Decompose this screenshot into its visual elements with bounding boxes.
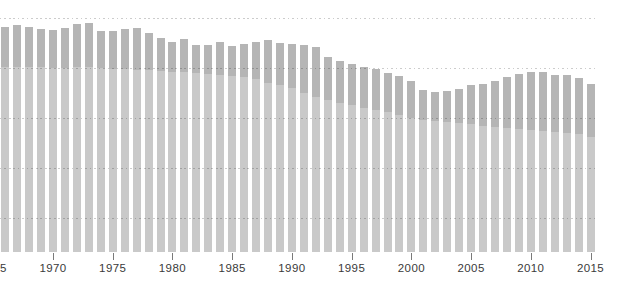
bar-front-1992 bbox=[312, 97, 320, 252]
x-tick-1990 bbox=[292, 253, 293, 260]
bar-front-2002 bbox=[431, 121, 439, 252]
bar-front-1977 bbox=[133, 70, 141, 252]
x-tick-label-1995: 1995 bbox=[330, 262, 374, 274]
bar-front-1972 bbox=[73, 67, 81, 252]
bar-front-1966 bbox=[1, 67, 9, 252]
bar-front-1985 bbox=[228, 76, 236, 252]
bar-front-2004 bbox=[455, 123, 463, 252]
bar-front-1968 bbox=[25, 67, 33, 252]
x-tick-1975 bbox=[113, 253, 114, 260]
bar-front-2015 bbox=[587, 137, 595, 252]
bar-front-1981 bbox=[180, 72, 188, 252]
x-tick-label-1975: 1975 bbox=[91, 262, 135, 274]
bar-front-1993 bbox=[324, 100, 332, 252]
x-tick-1985 bbox=[232, 253, 233, 260]
bar-front-2011 bbox=[539, 131, 547, 252]
bar-front-2000 bbox=[407, 118, 415, 252]
bar-front-2008 bbox=[503, 128, 511, 252]
x-tick-1970 bbox=[53, 253, 54, 260]
x-tick-label-1990: 1990 bbox=[270, 262, 314, 274]
bar-front-1982 bbox=[192, 73, 200, 252]
bar-front-1971 bbox=[61, 68, 69, 252]
bar-front-1994 bbox=[336, 103, 344, 252]
x-tick-label-1970: 1970 bbox=[31, 262, 75, 274]
bar-front-1979 bbox=[157, 71, 165, 252]
bar-front-2001 bbox=[419, 120, 427, 252]
x-tick-label-1985: 1985 bbox=[210, 262, 254, 274]
bar-front-1991 bbox=[300, 93, 308, 252]
bar-front-2014 bbox=[575, 134, 583, 252]
x-tick-label-1980: 1980 bbox=[150, 262, 194, 274]
x-tick-label-2010: 2010 bbox=[509, 262, 553, 274]
x-tick-2005 bbox=[471, 253, 472, 260]
bar-front-1984 bbox=[216, 75, 224, 252]
x-tick-1980 bbox=[172, 253, 173, 260]
bar-front-1970 bbox=[49, 68, 57, 252]
bar-front-2007 bbox=[491, 127, 499, 252]
bar-front-1996 bbox=[360, 108, 368, 252]
x-tick-label-2000: 2000 bbox=[389, 262, 433, 274]
bar-front-1973 bbox=[85, 67, 93, 252]
x-tick-label-2015: 2015 bbox=[569, 262, 613, 274]
bar-front-1980 bbox=[168, 72, 176, 252]
bar-front-2010 bbox=[527, 130, 535, 252]
x-tick-label-2005: 2005 bbox=[449, 262, 493, 274]
bar-front-1995 bbox=[348, 105, 356, 252]
bar-front-1969 bbox=[37, 67, 45, 252]
bar-front-1988 bbox=[264, 83, 272, 252]
bar-front-2012 bbox=[551, 132, 559, 252]
x-tick-2010 bbox=[531, 253, 532, 260]
bar-front-2005 bbox=[467, 124, 475, 252]
bar-front-2006 bbox=[479, 126, 487, 252]
bar-front-2009 bbox=[515, 129, 523, 252]
x-tick-2000 bbox=[411, 253, 412, 260]
bar-front-1967 bbox=[13, 67, 21, 252]
bar-front-1997 bbox=[372, 110, 380, 252]
bar-front-1999 bbox=[395, 115, 403, 252]
bar-front-1976 bbox=[121, 69, 129, 252]
x-tick-2015 bbox=[591, 253, 592, 260]
x-tick-1995 bbox=[352, 253, 353, 260]
x-tick-label-1965: 1965 bbox=[0, 262, 15, 274]
bar-front-1986 bbox=[240, 77, 248, 252]
bar-front-2013 bbox=[563, 133, 571, 252]
gridline-1 bbox=[0, 18, 598, 19]
bar-front-1987 bbox=[252, 79, 260, 252]
bar-front-1990 bbox=[288, 88, 296, 252]
bar-front-1975 bbox=[109, 69, 117, 252]
bar-front-1989 bbox=[276, 85, 284, 252]
bar-chart: 1965197019751980198519901995200020052010… bbox=[0, 0, 642, 294]
bar-front-2003 bbox=[443, 122, 451, 252]
bar-front-1978 bbox=[145, 70, 153, 252]
bar-front-1974 bbox=[97, 68, 105, 252]
bar-front-1998 bbox=[384, 112, 392, 252]
bar-front-1983 bbox=[204, 74, 212, 252]
